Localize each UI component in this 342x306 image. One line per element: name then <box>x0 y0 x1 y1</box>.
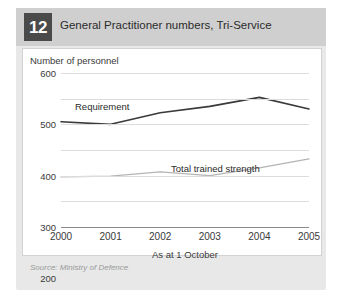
x-axis-tick: 2005 <box>298 231 320 242</box>
figure-number-badge: 12 <box>24 13 52 41</box>
gridline: 100 <box>61 201 309 202</box>
y-axis-tick: 600 <box>40 68 56 79</box>
gridline: 600 <box>61 73 309 74</box>
series-label-requirement: Requirement <box>75 101 129 112</box>
gridline: 400 <box>61 124 309 125</box>
x-axis-tick: 2003 <box>199 231 221 242</box>
page-title: General Practitioner numbers, Tri-Servic… <box>60 19 272 31</box>
x-axis-line: 0 <box>61 227 309 228</box>
x-axis-tick: 2000 <box>50 231 72 242</box>
card-header: 12 General Practitioner numbers, Tri-Ser… <box>16 8 326 46</box>
y-axis-title: Number of personnel <box>30 55 119 66</box>
figure-number: 12 <box>29 19 47 36</box>
source-note: Source: Ministry of Defence <box>30 263 128 272</box>
plot-container: Number of personnel Requirement Total tr… <box>22 48 322 256</box>
gridline: 200 <box>61 176 309 177</box>
plot-area: Requirement Total trained strength As at… <box>61 73 309 227</box>
y-axis-tick: 400 <box>40 170 56 181</box>
gridline: 300 <box>61 150 309 151</box>
chart-card: 12 General Practitioner numbers, Tri-Ser… <box>16 8 326 290</box>
gridline: 500 <box>61 99 309 100</box>
x-axis-tick: 2002 <box>149 231 171 242</box>
y-axis-tick: 200 <box>40 273 56 284</box>
x-axis-tick: 2004 <box>248 231 270 242</box>
series-label-total-trained-strength: Total trained strength <box>171 163 260 174</box>
y-axis-tick: 500 <box>40 119 56 130</box>
x-axis-title: As at 1 October <box>61 249 309 260</box>
x-axis-tick: 2001 <box>99 231 121 242</box>
